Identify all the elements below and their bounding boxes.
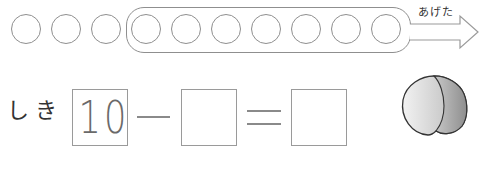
first-value: 10 bbox=[78, 92, 121, 143]
result-answer-box[interactable] bbox=[291, 89, 347, 146]
counter-circle bbox=[91, 14, 121, 44]
arrow-label: あげた bbox=[418, 3, 454, 19]
equals-sign-bottom bbox=[247, 123, 281, 125]
counter-circle bbox=[51, 14, 81, 44]
counter-circle bbox=[171, 14, 201, 44]
peach-icon bbox=[398, 74, 470, 140]
counter-circle bbox=[211, 14, 241, 44]
counter-circle bbox=[251, 14, 281, 44]
equation-label: しき bbox=[7, 92, 63, 124]
counter-circle bbox=[371, 14, 401, 44]
equals-sign-top bbox=[247, 110, 281, 112]
minus-sign bbox=[137, 116, 170, 118]
counter-circle bbox=[131, 14, 161, 44]
counter-circle bbox=[331, 14, 361, 44]
counter-circle bbox=[11, 14, 41, 44]
arrow-icon bbox=[408, 14, 480, 50]
second-answer-box[interactable] bbox=[181, 89, 237, 146]
counter-circle bbox=[291, 14, 321, 44]
first-answer-box[interactable]: 10 bbox=[72, 89, 128, 146]
